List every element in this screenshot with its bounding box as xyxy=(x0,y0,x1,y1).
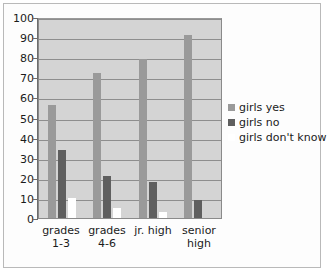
legend-swatch-icon xyxy=(228,119,235,126)
y-tick-label: 10 xyxy=(20,193,34,204)
y-tick-mark xyxy=(33,159,38,160)
legend-item[interactable]: girls yes xyxy=(228,100,324,114)
y-axis: 0102030405060708090100 xyxy=(6,18,34,219)
x-axis: grades1-3grades4-6jr. highseniorhigh xyxy=(38,224,222,268)
bar xyxy=(149,182,157,218)
bar-group xyxy=(130,19,176,218)
legend-item[interactable]: girls don't know xyxy=(228,130,324,144)
bar xyxy=(58,150,66,218)
legend-label: girls yes xyxy=(239,102,285,113)
x-tick-label: grades1-3 xyxy=(38,224,84,268)
y-tick-mark xyxy=(33,38,38,39)
y-tick-mark xyxy=(33,219,38,220)
y-tick-label: 40 xyxy=(20,133,34,144)
x-tick-label: seniorhigh xyxy=(176,224,222,268)
legend-label: girls don't know xyxy=(239,132,326,143)
bar xyxy=(48,105,56,218)
chart-figure: 0102030405060708090100 grades1-3grades4-… xyxy=(0,0,327,274)
y-tick-label: 20 xyxy=(20,173,34,184)
bar xyxy=(113,208,121,218)
legend-item[interactable]: girls no xyxy=(228,115,324,129)
plot-area xyxy=(38,18,222,219)
y-tick-mark xyxy=(33,18,38,19)
y-tick-label: 80 xyxy=(20,53,34,64)
x-tick-label: grades4-6 xyxy=(84,224,130,268)
x-tick-label-line1: senior xyxy=(182,224,216,237)
bar xyxy=(184,35,192,218)
y-tick-mark xyxy=(33,179,38,180)
y-tick-label: 70 xyxy=(20,73,34,84)
bar xyxy=(68,198,76,218)
x-tick-label-line2: high xyxy=(176,237,222,250)
x-tick-label-line1: grades xyxy=(88,224,126,237)
y-tick-mark xyxy=(33,119,38,120)
y-tick-label: 60 xyxy=(20,93,34,104)
y-tick-label: 50 xyxy=(20,113,34,124)
x-tick-label: jr. high xyxy=(130,224,176,268)
bar xyxy=(159,212,167,218)
legend-swatch-icon xyxy=(228,104,235,111)
legend: girls yesgirls nogirls don't know xyxy=(228,100,324,145)
bar xyxy=(103,176,111,218)
x-tick-label-line2: 1-3 xyxy=(38,237,84,250)
bar xyxy=(139,59,147,218)
y-tick-mark xyxy=(33,199,38,200)
y-tick-label: 30 xyxy=(20,153,34,164)
y-tick-mark xyxy=(33,58,38,59)
y-tick-mark xyxy=(33,98,38,99)
y-tick-mark xyxy=(33,139,38,140)
x-tick-label-line1: jr. high xyxy=(134,224,172,237)
bar xyxy=(194,200,202,218)
bar xyxy=(93,73,101,218)
x-tick-label-line2: 4-6 xyxy=(84,237,130,250)
bars-layer xyxy=(39,19,221,218)
x-tick-label-line1: grades xyxy=(42,224,80,237)
legend-label: girls no xyxy=(239,117,280,128)
y-tick-label: 90 xyxy=(20,33,34,44)
y-tick-label: 100 xyxy=(13,13,34,24)
bar-group xyxy=(85,19,131,218)
bar-group xyxy=(176,19,222,218)
legend-swatch-icon xyxy=(228,134,235,141)
y-tick-mark xyxy=(33,78,38,79)
bar-group xyxy=(39,19,85,218)
